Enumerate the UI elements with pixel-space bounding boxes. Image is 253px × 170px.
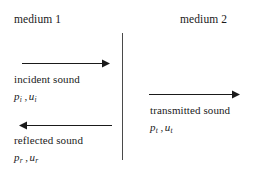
transmitted-symbol-separator: , [158,121,165,133]
incident-pressure-symbol: p [14,90,20,102]
medium-1-label: medium 1 [14,13,61,25]
acoustic-interface-diagram: medium 1 medium 2 incident sound pi,ui t… [0,0,253,170]
incident-sound-arrow [22,59,110,68]
transmitted-sound-caption: transmitted sound [150,104,230,116]
transmitted-pressure-symbol: p [150,121,156,133]
incident-sound-caption: incident sound [14,73,80,85]
incident-pressure-subscript: i [20,95,22,104]
transmitted-velocity-subscript: t [170,126,172,135]
reflected-sound-symbols: pr,ur [14,151,38,165]
transmitted-pressure-subscript: t [156,126,158,135]
reflected-sound-caption: reflected sound [14,134,83,146]
medium-2-label: medium 2 [180,13,227,25]
reflected-sound-arrow [19,121,112,130]
transmitted-sound-arrow [149,90,240,99]
incident-sound-symbols: pi,ui [14,90,37,104]
incident-velocity-subscript: i [34,95,36,104]
reflected-pressure-symbol: p [14,151,20,163]
reflected-velocity-subscript: r [35,156,38,165]
reflected-pressure-subscript: r [20,156,23,165]
incident-symbol-separator: , [22,90,29,102]
transmitted-sound-symbols: pt,ut [150,121,173,135]
interface-boundary-line [122,33,123,160]
